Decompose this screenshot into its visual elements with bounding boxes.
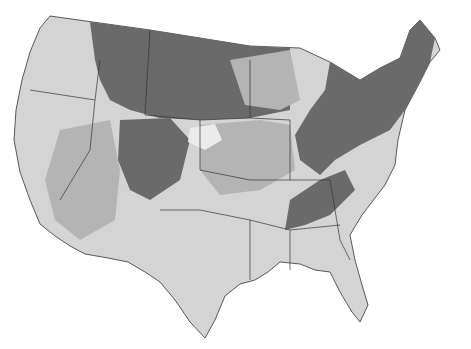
map-svg [0,0,471,349]
us-choropleth-map [0,0,471,349]
